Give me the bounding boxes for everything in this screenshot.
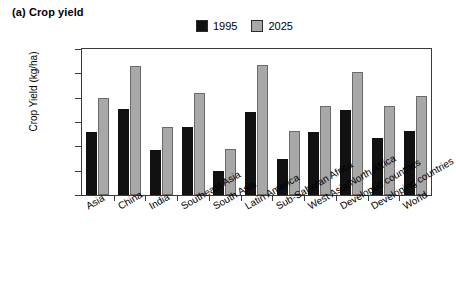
bar-2025: [130, 66, 141, 195]
bar-1995: [182, 127, 193, 195]
crop-yield-figure: (a) Crop yield 1995 2025 Crop Yield (kg/…: [0, 0, 456, 283]
legend-item-1995: 1995: [196, 20, 237, 32]
legend-label-2025: 2025: [268, 21, 292, 32]
x-tick-mark: [177, 196, 178, 201]
legend-item-2025: 2025: [251, 20, 292, 32]
bar-1995: [150, 150, 161, 195]
bar-1995: [118, 109, 129, 195]
bar-1995: [86, 132, 97, 195]
legend-swatch-2025: [251, 20, 263, 32]
x-tick-mark: [145, 196, 146, 201]
bar-2025: [194, 93, 205, 195]
chart-title: (a) Crop yield: [12, 6, 84, 18]
bar-2025: [257, 65, 268, 195]
bar-2025: [162, 127, 173, 195]
bar-2025: [98, 98, 109, 195]
legend-label-1995: 1995: [213, 21, 237, 32]
legend-swatch-1995: [196, 20, 208, 32]
x-tick-mark: [114, 196, 115, 201]
y-axis-title: Crop Yield (kg/ha): [28, 32, 39, 152]
chart-legend: 1995 2025: [196, 20, 293, 32]
bars-layer: [82, 49, 431, 195]
